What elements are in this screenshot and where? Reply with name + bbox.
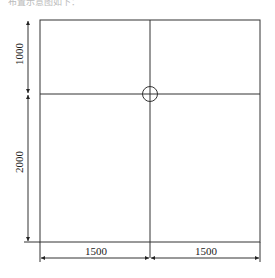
dim-label-left-top: 1000 [13, 43, 25, 66]
caption: 布置示意图如下： [8, 0, 80, 8]
dim-label-bottom-right: 1500 [195, 245, 218, 257]
layout-diagram: 1000 2000 1500 1500 [0, 0, 275, 278]
dim-label-left-bottom: 2000 [13, 151, 25, 174]
dim-label-bottom-left: 1500 [85, 245, 108, 257]
